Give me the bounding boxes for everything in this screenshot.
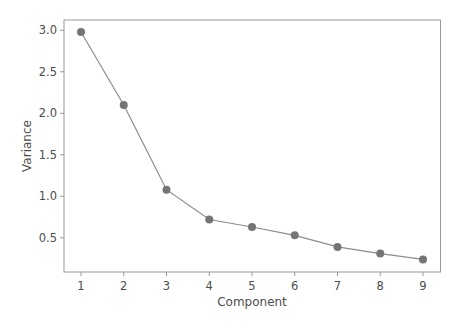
data-point [334,243,342,251]
x-tick-label: 9 [419,279,426,293]
y-axis-label: Variance [20,120,34,172]
x-tick-label: 3 [163,279,170,293]
data-point [163,186,171,194]
data-point [419,255,427,263]
scree-plot: 0.51.01.52.02.53.0 123456789 Component V… [0,0,461,329]
y-tick-label: 0.5 [39,231,57,245]
x-tick-label: 6 [291,279,298,293]
y-tick-label: 1.0 [39,189,57,203]
data-point [376,250,384,258]
x-tick-label: 7 [334,279,341,293]
x-tick-label: 2 [120,279,127,293]
data-point [77,28,85,36]
y-tick-label: 2.5 [39,65,57,79]
x-axis-label: Component [217,295,287,309]
x-tick-label: 1 [77,279,84,293]
x-tick-label: 4 [206,279,213,293]
data-point [248,223,256,231]
x-tick-label: 8 [377,279,384,293]
plot-area [64,20,441,272]
y-tick-label: 3.0 [39,23,57,37]
y-tick-label: 2.0 [39,106,57,120]
data-point [291,231,299,239]
y-axis-ticks: 0.51.01.52.02.53.0 [39,23,64,245]
y-tick-label: 1.5 [39,148,57,162]
data-point [205,216,213,224]
x-axis-ticks: 123456789 [77,272,426,293]
data-point [120,101,128,109]
x-tick-label: 5 [248,279,255,293]
